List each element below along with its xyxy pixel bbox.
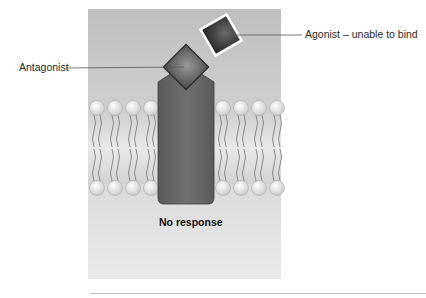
lipid-head — [144, 181, 159, 196]
lipid-head — [270, 101, 285, 116]
antagonist-diagram — [0, 0, 426, 298]
lipid-head — [234, 181, 249, 196]
lipid-head — [270, 181, 285, 196]
lipid-head — [144, 101, 159, 116]
antagonist-label: Antagonist — [19, 61, 69, 73]
lipid-head — [108, 181, 123, 196]
lipid-head — [252, 181, 267, 196]
lipid-head — [126, 181, 141, 196]
agonist-label: Agonist – unable to bind — [305, 28, 418, 40]
lipid-head — [234, 101, 249, 116]
lipid-head — [90, 181, 105, 196]
lipid-head — [126, 101, 141, 116]
lipid-head — [216, 181, 231, 196]
lipid-head — [252, 101, 267, 116]
diagram: Antagonist Agonist – unable to bind No r… — [0, 0, 426, 298]
lipid-head — [90, 101, 105, 116]
lipid-head — [108, 101, 123, 116]
divider-line — [90, 293, 426, 294]
lipid-head — [216, 101, 231, 116]
no-response-caption: No response — [159, 216, 223, 228]
